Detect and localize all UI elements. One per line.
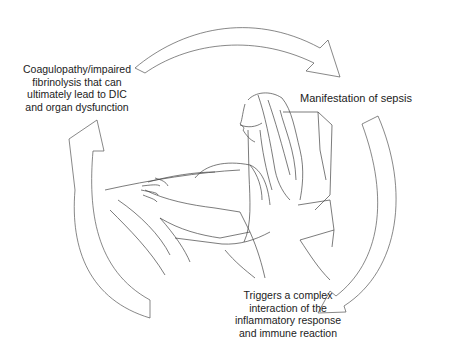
label-line: interaction of the xyxy=(213,302,363,315)
label-line: Triggers a complex xyxy=(213,289,363,302)
label-line: ultimately lead to DIC xyxy=(2,88,152,101)
label-line: fibrinolysis that can xyxy=(2,76,152,89)
arrow-left-icon xyxy=(69,120,150,318)
patient-illustration xyxy=(105,93,334,280)
label-line: and immune reaction xyxy=(213,327,363,340)
step-label-left: Coagulopathy/impaired fibrinolysis that … xyxy=(2,63,152,113)
step-label-right: Manifestation of sepsis xyxy=(300,92,440,105)
label-line: Coagulopathy/impaired xyxy=(2,63,152,76)
label-line: inflammatory response xyxy=(213,314,363,327)
arrow-right-icon xyxy=(318,116,396,313)
step-label-bottom: Triggers a complex interaction of the in… xyxy=(213,289,363,339)
arrow-top-icon xyxy=(135,28,340,77)
label-line: and organ dysfunction xyxy=(2,101,152,114)
